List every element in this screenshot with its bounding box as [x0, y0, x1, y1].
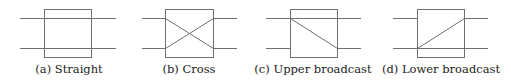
panel-upper-broadcast	[266, 10, 361, 58]
panel-cross	[142, 10, 237, 58]
switch-box	[45, 10, 92, 58]
caption-lower-broadcast: (d) Lower broadcast	[382, 62, 500, 76]
panel-lower-broadcast	[393, 10, 488, 58]
caption-cross: (b) Cross	[162, 62, 215, 76]
broadcast-diagonal	[418, 19, 465, 49]
caption-upper-broadcast: (c) Upper broadcast	[254, 62, 371, 76]
broadcast-diagonal	[291, 19, 338, 49]
caption-straight: (a) Straight	[35, 62, 102, 76]
panel-straight	[20, 10, 116, 58]
